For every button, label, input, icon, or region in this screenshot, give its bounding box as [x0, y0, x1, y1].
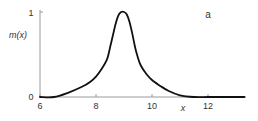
data-series-m-x	[40, 12, 244, 98]
x-tick-label-12: 12	[203, 101, 213, 111]
x-tick-label-8: 8	[93, 101, 98, 111]
x-tick-label-6: 6	[37, 101, 42, 111]
y-tick-label-0: 0	[28, 92, 33, 102]
x-tick-label-10: 10	[147, 101, 157, 111]
x-axis-label: x	[180, 103, 186, 113]
panel-label: a	[205, 9, 211, 20]
chart-plot: 1 0 6 8 10 12 m(x) x a	[0, 0, 258, 121]
y-axis-label: m(x)	[9, 30, 27, 40]
y-tick-label-1: 1	[28, 8, 33, 18]
